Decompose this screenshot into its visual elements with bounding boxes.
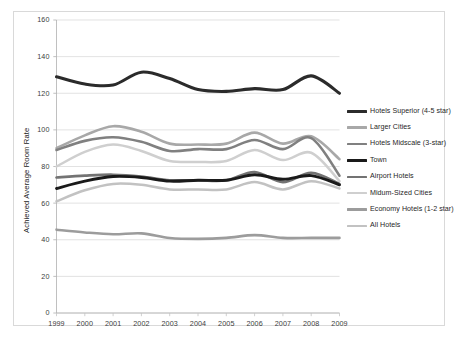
legend-item[interactable]: Midum-Sized Cities [347, 185, 455, 201]
legend-item[interactable]: Airport Hotels [347, 169, 455, 185]
legend-label: Larger Cities [370, 124, 411, 131]
legend-swatch-line-icon [347, 110, 367, 113]
y-axis-title: Achieved Average Room Rate [22, 128, 31, 234]
series-line [57, 181, 340, 201]
gridlines [57, 20, 340, 313]
legend-swatch-line-icon [347, 159, 367, 162]
legend-swatch-line-icon [347, 225, 367, 227]
y-tick-label: 40 [20, 235, 50, 244]
legend-label: All Hotels [370, 222, 400, 229]
y-tick-label: 0 [20, 308, 50, 317]
legend-swatch-line-icon [347, 192, 367, 194]
legend-label: Hotels Superior (4-5 star) [370, 108, 451, 115]
chart-legend: Hotels Superior (4-5 star)Larger CitiesH… [347, 103, 455, 234]
legend-swatch-line-icon [347, 143, 367, 145]
series-line [57, 230, 340, 239]
x-tick-marks [57, 313, 340, 316]
legend-label: Midum-Sized Cities [370, 190, 432, 197]
legend-swatch-line-icon [347, 176, 367, 178]
y-tick-label: 160 [20, 15, 50, 24]
legend-item[interactable]: Town [347, 152, 455, 168]
legend-swatch-line-icon [347, 208, 367, 210]
legend-swatch-line-icon [347, 126, 367, 128]
legend-label: Airport Hotels [370, 173, 414, 180]
y-tick-label: 20 [20, 272, 50, 281]
legend-item[interactable]: Hotels Midscale (3-star) [347, 136, 455, 152]
legend-item[interactable]: All Hotels [347, 218, 455, 234]
legend-label: Hotels Midscale (3-star) [370, 140, 446, 147]
legend-item[interactable]: Larger Cities [347, 119, 455, 135]
x-tick-label: 2009 [323, 319, 357, 328]
y-tick-label: 80 [20, 162, 50, 171]
legend-label: Economy Hotels (1-2 star) [370, 206, 454, 213]
y-tick-label: 140 [20, 52, 50, 61]
legend-item[interactable]: Economy Hotels (1-2 star) [347, 201, 455, 217]
legend-label: Town [370, 157, 387, 164]
series-layer [57, 72, 340, 239]
series-line [57, 72, 340, 93]
y-tick-label: 60 [20, 199, 50, 208]
y-tick-label: 100 [20, 125, 50, 134]
y-tick-label: 120 [20, 89, 50, 98]
legend-item[interactable]: Hotels Superior (4-5 star) [347, 103, 455, 119]
